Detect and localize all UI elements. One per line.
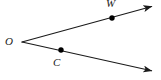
geometry-canvas bbox=[0, 0, 161, 80]
point-marker-c bbox=[58, 47, 63, 52]
point-marker-w bbox=[109, 15, 114, 20]
angle-diagram: O W C bbox=[0, 0, 161, 80]
ray-lower-OC bbox=[22, 42, 152, 71]
ray-upper-OW bbox=[22, 6, 152, 42]
point-label-w: W bbox=[106, 0, 115, 9]
point-label-o: O bbox=[5, 36, 13, 47]
point-label-c: C bbox=[53, 57, 60, 68]
